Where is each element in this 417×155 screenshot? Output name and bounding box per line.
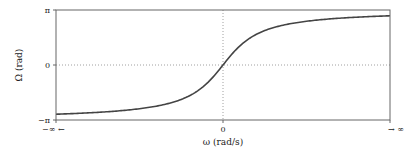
- x-tick-label: −∞ ←: [42, 125, 65, 134]
- y-tick-label: −π: [38, 116, 50, 125]
- y-tick-label: 0: [45, 61, 50, 70]
- y-axis-label: Ω (rad): [14, 49, 24, 82]
- series-line: [56, 16, 390, 114]
- x-tick-label: 0: [220, 125, 225, 134]
- x-axis-label: ω (rad/s): [203, 137, 243, 147]
- y-tick-label: π: [45, 6, 50, 15]
- chart: −π0π −∞ ←0→ ∞ ω (rad/s) Ω (rad): [0, 0, 417, 155]
- x-tick-label: → ∞: [388, 125, 404, 134]
